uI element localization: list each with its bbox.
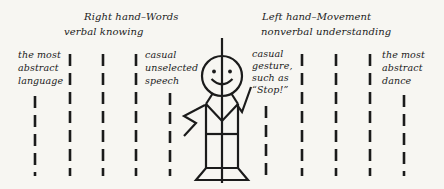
figure-right-eye: [228, 70, 232, 74]
figure-right-arm-pointing: [237, 87, 251, 112]
figure-left-shoulder: [206, 93, 213, 104]
diagram-canvas: Right hand–Words verbal knowing Left han…: [0, 0, 444, 189]
label-line: casual: [145, 48, 198, 61]
label-casual-gesture: casual gesture, such as “Stop!”: [252, 48, 293, 96]
label-line: speech: [145, 74, 198, 87]
label-line: abstract: [382, 61, 425, 74]
header-left-line2: verbal knowing: [64, 26, 144, 38]
label-line: such as: [252, 72, 293, 84]
label-casual-speech: casual unselected speech: [145, 48, 198, 87]
label-line: unselected: [145, 61, 198, 74]
header-left-line1: Right hand–Words: [84, 11, 179, 23]
figure-left-eye: [212, 70, 216, 74]
label-line: “Stop!”: [252, 84, 293, 96]
label-line: casual: [252, 48, 293, 60]
figure-left-arm: [184, 105, 205, 136]
label-line: dance: [382, 74, 425, 87]
label-line: gesture,: [252, 60, 293, 72]
label-line: the most: [18, 48, 63, 61]
dashed-lines: [35, 54, 404, 176]
label-line: language: [18, 74, 63, 87]
label-most-abstract-language: the most abstract language: [18, 48, 63, 87]
label-most-abstract-dance: the most abstract dance: [382, 48, 425, 87]
label-line: the most: [382, 48, 425, 61]
figure-right-shoulder: [231, 93, 238, 104]
header-right-line1: Left hand–Movement: [262, 11, 371, 23]
header-right-line2: nonverbal understanding: [261, 26, 391, 38]
label-line: abstract: [18, 61, 63, 74]
